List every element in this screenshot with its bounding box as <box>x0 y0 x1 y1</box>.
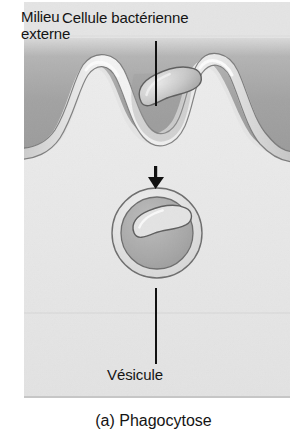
illustration-panel <box>24 2 290 398</box>
paper-texture <box>24 2 290 398</box>
label-bacterial-cell: Cellule bactérienne <box>62 9 189 26</box>
down-arrow-icon <box>146 166 166 190</box>
phagocytosis-illustration <box>24 2 290 398</box>
panel-bottom-border <box>24 396 290 398</box>
leader-line-vesicle <box>155 288 157 364</box>
phagocytosis-figure: Milieu externe Cellule bactérienne Vésic… <box>0 0 307 429</box>
figure-caption: (a) Phagocytose <box>0 411 307 429</box>
leader-line-bacterial-cell <box>155 41 157 106</box>
label-vesicle: Vésicule <box>107 366 163 383</box>
